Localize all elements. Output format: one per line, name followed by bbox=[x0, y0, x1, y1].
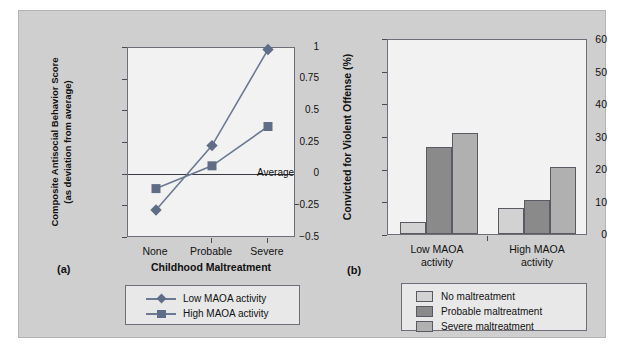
panel-b-tag: (b) bbox=[347, 264, 361, 276]
legend-item-high-maoa[interactable]: High MAOA activity bbox=[126, 306, 299, 321]
panel-a-series-layer bbox=[128, 48, 296, 238]
panel-a-xtick-mark-probable bbox=[211, 238, 212, 243]
bar-low-probable-maltreatment bbox=[426, 147, 452, 234]
panel-a-ytick-mark-neg05 bbox=[122, 237, 127, 238]
panel-b-group-label-low-line1: Low MAOA bbox=[397, 243, 477, 256]
panel-b-xtick-mark-middle bbox=[487, 236, 488, 241]
legend-swatch-probable-maltreatment-icon bbox=[416, 306, 433, 317]
data-point-high-probable bbox=[208, 161, 217, 170]
panel-a-xtick-probable: Probable bbox=[181, 245, 241, 257]
panel-a-line-low-maoa bbox=[156, 50, 268, 211]
panel-a-xtick-mark-severe bbox=[267, 238, 268, 243]
panel-a-line-high-maoa bbox=[156, 127, 268, 189]
bar-low-severe-maltreatment bbox=[452, 133, 478, 234]
panel-b-group-label-high-line2: activity bbox=[497, 256, 577, 269]
legend-item-severe-maltreatment[interactable]: Severe maltreatment bbox=[416, 319, 586, 334]
legend-marker-square-icon bbox=[146, 307, 176, 320]
panel-b-plot-area bbox=[387, 39, 587, 235]
bar-high-severe-maltreatment bbox=[550, 167, 576, 234]
panel-a-y-axis-label-line2: (as deviation from average) bbox=[62, 47, 73, 237]
legend-label-high-maoa: High MAOA activity bbox=[183, 308, 269, 319]
legend-item-probable-maltreatment[interactable]: Probable maltreatment bbox=[416, 304, 586, 319]
panel-b: Convicted for Violent Offense (%) 60 50 … bbox=[319, 11, 607, 339]
panel-a-plot-area bbox=[127, 47, 295, 237]
bar-high-probable-maltreatment bbox=[524, 200, 550, 234]
panel-b-ytick-mark-0 bbox=[382, 235, 387, 236]
panel-b-y-axis-label: Convicted for Violent Offense (%) bbox=[341, 39, 353, 235]
panel-b-legend: No maltreatment Probable maltreatment Se… bbox=[401, 283, 587, 331]
panel-b-group-label-low-maoa: Low MAOA activity bbox=[397, 243, 477, 269]
panel-b-group-label-high-maoa: High MAOA activity bbox=[497, 243, 577, 269]
data-point-high-none bbox=[152, 184, 161, 193]
panel-b-group-label-low-line2: activity bbox=[397, 256, 477, 269]
legend-label-severe-maltreatment: Severe maltreatment bbox=[441, 321, 534, 332]
panel-a-tag: (a) bbox=[57, 263, 70, 275]
panel-b-group-label-high-line1: High MAOA bbox=[497, 243, 577, 256]
legend-item-no-maltreatment[interactable]: No maltreatment bbox=[416, 289, 586, 304]
legend-marker-diamond-icon bbox=[146, 292, 176, 305]
figure-container: Composite Antisocial Behavior Score (as … bbox=[18, 10, 606, 338]
panel-a-average-annotation: Average bbox=[257, 167, 294, 178]
legend-label-probable-maltreatment: Probable maltreatment bbox=[441, 306, 542, 317]
panel-a-x-axis-label: Childhood Maltreatment bbox=[115, 261, 307, 273]
legend-label-no-maltreatment: No maltreatment bbox=[441, 291, 515, 302]
legend-swatch-no-maltreatment-icon bbox=[416, 291, 433, 302]
data-point-high-severe bbox=[264, 122, 273, 131]
panel-a-legend: Low MAOA activity High MAOA activity bbox=[125, 285, 300, 325]
panel-a-markers-low-maoa bbox=[150, 44, 273, 216]
panel-a-xtick-severe: Severe bbox=[237, 245, 297, 257]
legend-swatch-severe-maltreatment-icon bbox=[416, 321, 433, 332]
legend-item-low-maoa[interactable]: Low MAOA activity bbox=[126, 291, 299, 306]
panel-a-y-axis-label-line1: Composite Antisocial Behavior Score bbox=[49, 47, 60, 237]
bar-low-no-maltreatment bbox=[400, 222, 426, 234]
bar-high-no-maltreatment bbox=[498, 208, 524, 234]
panel-a: Composite Antisocial Behavior Score (as … bbox=[19, 11, 319, 339]
panel-a-xtick-none: None bbox=[125, 245, 185, 257]
legend-label-low-maoa: Low MAOA activity bbox=[183, 293, 266, 304]
